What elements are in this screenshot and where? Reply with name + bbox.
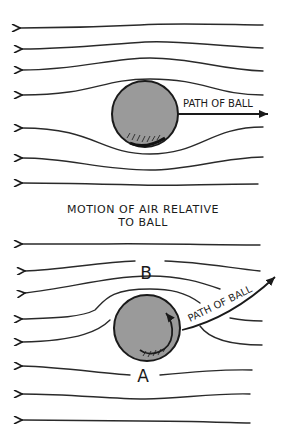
streamline	[22, 420, 250, 423]
label-a: A	[137, 366, 149, 386]
streamline	[22, 244, 260, 245]
streamline	[230, 318, 262, 321]
top-ball	[112, 81, 178, 147]
streamline	[25, 276, 220, 293]
ball-airflow-diagram: PATH OF BALL MOTION OF AIR RELATIVE TO B…	[0, 0, 286, 445]
streamline	[20, 24, 263, 28]
top-path-label: PATH OF BALL	[183, 98, 253, 109]
streamline	[22, 183, 258, 185]
streamline	[22, 58, 263, 71]
caption-line1: MOTION OF AIR RELATIVE	[67, 203, 219, 216]
caption-line2: TO BALL	[117, 216, 168, 229]
streamline	[22, 157, 263, 170]
streamline	[22, 42, 263, 49]
label-b: B	[140, 263, 152, 283]
bottom-ball	[114, 295, 180, 361]
streamline	[22, 394, 250, 399]
